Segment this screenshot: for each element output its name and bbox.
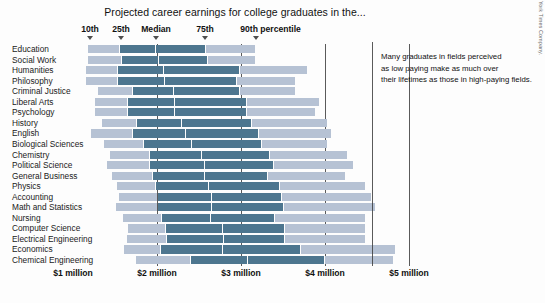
seg-p10-p25[interactable]	[86, 66, 118, 74]
seg-p75-p90[interactable]	[301, 245, 394, 253]
seg-p10-p25[interactable]	[128, 224, 165, 232]
seg-p75-p90[interactable]	[274, 161, 353, 169]
seg-p75-p90[interactable]	[252, 119, 327, 127]
seg-p75-p90[interactable]	[240, 66, 307, 74]
seg-p50-p75[interactable]	[209, 182, 279, 190]
seg-p50-p75[interactable]	[175, 98, 245, 106]
seg-p75-p90[interactable]	[259, 129, 331, 137]
chart-row[interactable]: General Business	[0, 171, 545, 182]
seg-p75-p90[interactable]	[282, 193, 371, 201]
chart-row[interactable]: Accounting	[0, 192, 545, 203]
seg-p25-p50[interactable]	[137, 119, 181, 127]
seg-p25-p50[interactable]	[153, 172, 204, 180]
chart-row[interactable]: Economics	[0, 244, 545, 255]
seg-p75-p90[interactable]	[280, 182, 366, 190]
seg-p75-p90[interactable]	[237, 77, 296, 85]
chart-row[interactable]: Math and Statistics	[0, 202, 545, 213]
chart-row[interactable]: Political Science	[0, 160, 545, 171]
seg-p10-p25[interactable]	[88, 56, 121, 64]
seg-p75-p90[interactable]	[325, 256, 393, 264]
chart-row[interactable]: Chemistry	[0, 150, 545, 161]
chart-row[interactable]: Psychology	[0, 107, 545, 118]
seg-p10-p25[interactable]	[107, 161, 149, 169]
chart-row[interactable]: Chemical Engineering	[0, 255, 545, 266]
seg-p25-p50[interactable]	[144, 140, 191, 148]
seg-p50-p75[interactable]	[223, 245, 301, 253]
seg-p25-p50[interactable]	[133, 129, 185, 137]
seg-p25-p50[interactable]	[167, 235, 223, 243]
seg-p75-p90[interactable]	[208, 56, 255, 64]
seg-p75-p90[interactable]	[285, 224, 365, 232]
seg-p75-p90[interactable]	[284, 203, 375, 211]
seg-p50-p75[interactable]	[248, 256, 324, 264]
seg-p25-p50[interactable]	[128, 108, 174, 116]
seg-p10-p25[interactable]	[104, 140, 143, 148]
seg-p25-p50[interactable]	[128, 98, 174, 106]
seg-p25-p50[interactable]	[120, 45, 155, 53]
chart-row[interactable]: English	[0, 128, 545, 139]
seg-p25-p50[interactable]	[158, 203, 212, 211]
chart-row[interactable]: Physics	[0, 181, 545, 192]
seg-p50-p75[interactable]	[156, 45, 205, 53]
seg-p50-p75[interactable]	[192, 140, 261, 148]
seg-p25-p50[interactable]	[122, 56, 158, 64]
seg-p75-p90[interactable]	[285, 235, 365, 243]
seg-p10-p25[interactable]	[116, 203, 157, 211]
seg-p50-p75[interactable]	[182, 119, 251, 127]
seg-p10-p25[interactable]	[95, 98, 128, 106]
seg-p50-p75[interactable]	[211, 214, 274, 222]
chart-row[interactable]: Biological Sciences	[0, 139, 545, 150]
seg-p50-p75[interactable]	[174, 87, 239, 95]
seg-p10-p25[interactable]	[117, 182, 155, 190]
seg-p50-p75[interactable]	[212, 203, 282, 211]
seg-p75-p90[interactable]	[275, 214, 366, 222]
seg-p10-p25[interactable]	[127, 235, 166, 243]
seg-p10-p25[interactable]	[102, 119, 136, 127]
seg-p25-p50[interactable]	[118, 77, 164, 85]
seg-p25-p50[interactable]	[150, 161, 204, 169]
seg-p75-p90[interactable]	[270, 151, 347, 159]
seg-p10-p25[interactable]	[123, 214, 161, 222]
seg-p25-p50[interactable]	[166, 224, 222, 232]
seg-p50-p75[interactable]	[212, 193, 282, 201]
seg-p50-p75[interactable]	[223, 224, 283, 232]
seg-p50-p75[interactable]	[165, 77, 235, 85]
seg-p25-p50[interactable]	[191, 256, 247, 264]
chart-row[interactable]: Nursing	[0, 213, 545, 224]
chart-row[interactable]: Computer Science	[0, 223, 545, 234]
seg-p10-p25[interactable]	[98, 87, 131, 95]
seg-p25-p50[interactable]	[158, 193, 211, 201]
seg-p75-p90[interactable]	[262, 140, 327, 148]
seg-p10-p25[interactable]	[124, 245, 160, 253]
seg-p50-p75[interactable]	[175, 108, 245, 116]
seg-p50-p75[interactable]	[224, 235, 283, 243]
seg-p50-p75[interactable]	[205, 161, 273, 169]
seg-p50-p75[interactable]	[164, 66, 239, 74]
seg-p10-p25[interactable]	[91, 129, 131, 137]
chart-row[interactable]: Electrical Engineering	[0, 234, 545, 245]
seg-p75-p90[interactable]	[247, 108, 315, 116]
seg-p25-p50[interactable]	[150, 151, 201, 159]
seg-p50-p75[interactable]	[159, 56, 208, 64]
seg-p10-p25[interactable]	[136, 256, 190, 264]
seg-p75-p90[interactable]	[247, 98, 319, 106]
seg-p10-p25[interactable]	[110, 151, 149, 159]
seg-p10-p25[interactable]	[88, 45, 119, 53]
seg-p50-p75[interactable]	[205, 172, 267, 180]
seg-p10-p25[interactable]	[112, 172, 152, 180]
seg-p10-p25[interactable]	[119, 193, 157, 201]
seg-p25-p50[interactable]	[162, 214, 210, 222]
chart-row[interactable]: History	[0, 118, 545, 129]
seg-p25-p50[interactable]	[161, 245, 221, 253]
seg-p75-p90[interactable]	[240, 87, 295, 95]
chart-row[interactable]: Criminal Justice	[0, 86, 545, 97]
seg-p25-p50[interactable]	[156, 182, 208, 190]
seg-p50-p75[interactable]	[186, 129, 258, 137]
seg-p75-p90[interactable]	[268, 172, 345, 180]
seg-p50-p75[interactable]	[202, 151, 268, 159]
seg-p75-p90[interactable]	[206, 45, 255, 53]
seg-p10-p25[interactable]	[86, 77, 118, 85]
seg-p25-p50[interactable]	[118, 66, 162, 74]
chart-row[interactable]: Liberal Arts	[0, 97, 545, 108]
seg-p10-p25[interactable]	[95, 108, 128, 116]
